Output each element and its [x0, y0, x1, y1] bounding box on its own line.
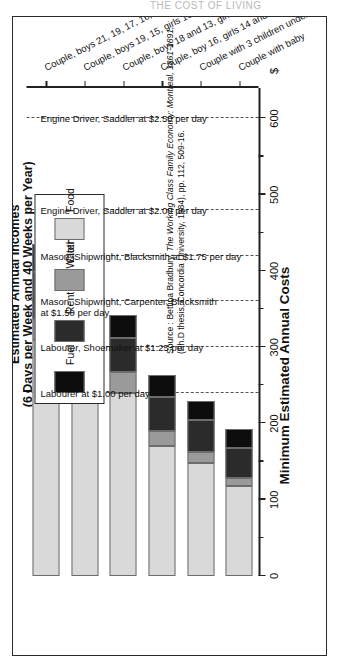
- bar-segment: [187, 420, 214, 453]
- bar-segment: [225, 478, 252, 486]
- x-tick-label-100: 100: [267, 491, 279, 509]
- bar-segment: [71, 382, 98, 576]
- bar-segment: [148, 375, 175, 396]
- x-tick-0: [258, 575, 265, 576]
- x-tick-600: [258, 117, 265, 118]
- category-tick: [161, 81, 162, 88]
- axis-currency-label: $: [267, 68, 279, 74]
- x-minor-tick-50: [258, 537, 263, 538]
- income-line-label-600: Engine Driver, Saddler at $2.50 per day: [40, 115, 206, 126]
- x-tick-400: [258, 270, 265, 271]
- income-line-label-480: Engine Driver, Saddler at $2.00 per day: [40, 206, 206, 217]
- x-minor-tick-450: [258, 232, 263, 233]
- bar-segment: [148, 446, 175, 576]
- category-tick: [123, 81, 124, 88]
- rotated-chart-canvas: Minimum Estimated Annual Costs Estimated…: [14, 18, 325, 654]
- income-line-label-300: Labourer, Shoemaker at $1.25 per day: [40, 343, 203, 354]
- category-tick: [239, 81, 240, 88]
- income-line-label-240: Labourer at $1.00 per day: [40, 389, 149, 400]
- bar-segment: [109, 393, 136, 576]
- bar-segment: [187, 463, 214, 576]
- bar-segment: [225, 429, 252, 448]
- x-tick-label-300: 300: [267, 338, 279, 356]
- legend-swatch: [54, 218, 84, 240]
- bar-segment: [148, 397, 175, 431]
- x-tick-label-400: 400: [267, 262, 279, 280]
- x-tick-label-500: 500: [267, 186, 279, 204]
- bar-segment: [225, 448, 252, 479]
- x-minor-tick-550: [258, 155, 263, 156]
- x-tick-label-600: 600: [267, 109, 279, 127]
- x-tick-500: [258, 193, 265, 194]
- bar-row: [225, 88, 252, 576]
- category-tick: [200, 81, 201, 88]
- x-tick-label-0: 0: [267, 573, 279, 579]
- x-tick-200: [258, 422, 265, 423]
- figure-frame: Minimum Estimated Annual Costs Estimated…: [12, 16, 327, 656]
- bar-segment: [109, 315, 136, 338]
- category-tick: [84, 81, 85, 88]
- x-tick-label-200: 200: [267, 414, 279, 432]
- bar-segment: [225, 486, 252, 576]
- x-minor-tick-150: [258, 460, 263, 461]
- chart-title: Minimum Estimated Annual Costs: [276, 267, 291, 485]
- x-tick-100: [258, 498, 265, 499]
- bar-row: [187, 88, 214, 576]
- x-tick-300: [258, 346, 265, 347]
- x-minor-tick-350: [258, 308, 263, 309]
- category-tick: [45, 81, 46, 88]
- income-line-label-420: Mason, Shipwright, Blacksmith at $1.75 p…: [40, 252, 241, 263]
- income-line-label-360: Mason, Shipwright, Carpenter, Blacksmith…: [40, 298, 216, 319]
- value-axis-line: [258, 88, 260, 576]
- scan-artifact-text: THE COST OF LIVING: [150, 0, 339, 14]
- legend-swatch: [54, 320, 84, 342]
- legend-swatch: [54, 269, 84, 291]
- category-axis-line: [26, 86, 258, 88]
- bar-row: [109, 88, 136, 576]
- bar-segment: [187, 452, 214, 463]
- bar-segment: [148, 431, 175, 446]
- bar-segment: [187, 401, 214, 420]
- x-minor-tick-250: [258, 384, 263, 385]
